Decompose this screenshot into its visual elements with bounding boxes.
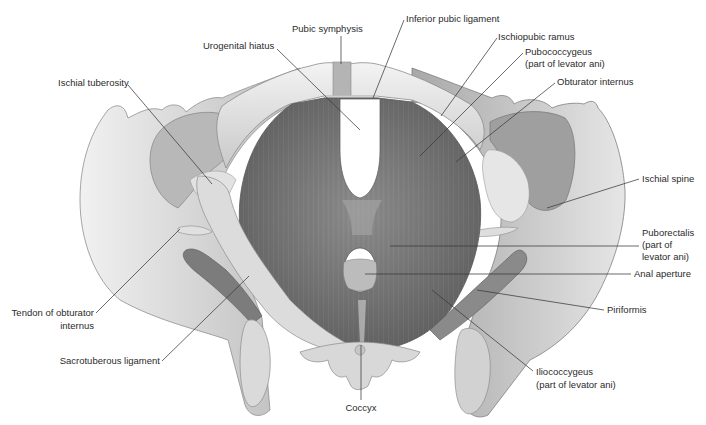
label-piriformis: Piriformis [607, 304, 647, 315]
label-pubic-symphysis: Pubic symphysis [292, 23, 363, 34]
label-puborectalis-sub1: (part of [642, 239, 672, 250]
label-tendon-obturator-sub: internus [60, 320, 94, 331]
label-tendon-obturator: Tendon of obturator [12, 307, 94, 318]
label-ischiopubic-ramus: Ischiopubic ramus [498, 31, 575, 42]
label-coccyx: Coccyx [345, 402, 376, 413]
label-obturator-internus: Obturator internus [557, 76, 634, 87]
label-inferior-pubic-ligament: Inferior pubic ligament [406, 13, 500, 24]
label-ischial-spine: Ischial spine [642, 173, 694, 184]
label-anal-aperture: Anal aperture [634, 268, 691, 279]
label-iliococcygeus: Iliococcygeus [536, 366, 593, 377]
label-pubococcygeus: Pubococcygeus [525, 46, 592, 57]
label-ischial-tuberosity: Ischial tuberosity [58, 77, 129, 88]
pelvic-floor-diagram: Pubic symphysis Inferior pubic ligament … [0, 0, 706, 425]
pubic-symphysis-disc [333, 62, 351, 96]
label-puborectalis-sub2: levator ani) [642, 251, 689, 262]
anal-aperture [343, 248, 377, 292]
coccyx-bone [300, 342, 420, 390]
label-sacrotuberous-ligament: Sacrotuberous ligament [60, 355, 161, 366]
label-puborectalis: Puborectalis [642, 227, 695, 238]
label-pubococcygeus-sub: (part of levator ani) [525, 58, 605, 69]
label-iliococcygeus-sub: (part of levator ani) [536, 379, 616, 390]
urogenital-hiatus-opening [340, 99, 380, 198]
label-urogenital-hiatus: Urogenital hiatus [203, 40, 275, 51]
